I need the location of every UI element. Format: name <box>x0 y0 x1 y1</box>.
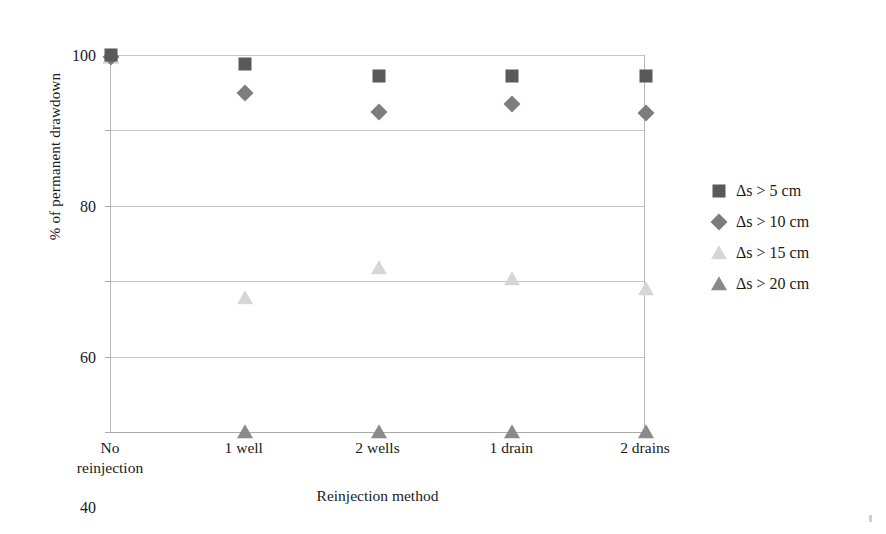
data-point <box>640 69 653 82</box>
data-point <box>105 49 118 62</box>
legend-marker-triangle-dark-icon <box>709 276 729 292</box>
y-tick-60: 60 <box>105 206 111 207</box>
scatter-chart-figure: % of permanent drawdown 020406080100 Rei… <box>0 0 886 534</box>
data-point <box>504 424 520 438</box>
legend-label: Δs > 20 cm <box>736 276 809 292</box>
data-point <box>372 69 385 82</box>
gridline-y-80 <box>111 130 644 131</box>
x-tick-label: 1 drain <box>451 438 571 458</box>
x-axis-title: Reinjection method <box>110 487 645 505</box>
legend-label: Δs > 10 cm <box>736 214 809 230</box>
data-point <box>504 272 520 286</box>
legend-item[interactable]: Δs > 10 cm <box>709 213 809 231</box>
data-point <box>371 424 387 438</box>
scan-artifact <box>869 515 872 522</box>
data-point <box>638 105 655 122</box>
gridline-y-100 <box>111 55 644 56</box>
legend-label: Δs > 5 cm <box>736 183 801 199</box>
legend-label: Δs > 15 cm <box>736 245 809 261</box>
y-tick-0: 0 <box>105 432 111 433</box>
legend-item[interactable]: Δs > 5 cm <box>709 182 809 200</box>
y-tick-40: 40 <box>105 281 111 282</box>
data-point <box>638 424 654 438</box>
data-point <box>238 58 251 71</box>
data-point <box>371 260 387 274</box>
x-tick-label: 1 well <box>184 438 304 458</box>
legend-item[interactable]: Δs > 15 cm <box>709 244 809 262</box>
x-tick-label: 2 drains <box>585 438 705 458</box>
y-tick-label: 40 <box>80 500 96 516</box>
y-tick-label: 100 <box>72 48 96 64</box>
legend-item[interactable]: Δs > 20 cm <box>709 275 809 293</box>
data-point <box>370 103 387 120</box>
x-tick-label: 2 wells <box>318 438 438 458</box>
y-tick-80: 80 <box>105 130 111 131</box>
y-tick-label: 60 <box>80 350 96 366</box>
data-point <box>504 96 521 113</box>
y-tick-20: 20 <box>105 357 111 358</box>
chart-legend: Δs > 5 cmΔs > 10 cmΔs > 15 cmΔs > 20 cm <box>709 182 809 293</box>
y-tick-label: 80 <box>80 199 96 215</box>
data-point <box>236 84 253 101</box>
legend-marker-diamond-icon <box>709 214 729 230</box>
data-point <box>237 290 253 304</box>
data-point <box>237 424 253 438</box>
legend-marker-square-icon <box>709 183 729 199</box>
gridline-y-60 <box>111 206 644 207</box>
x-tick-label: No reinjection <box>50 438 170 478</box>
plot-area: 020406080100 <box>110 55 645 432</box>
data-point <box>638 281 654 295</box>
data-point <box>506 69 519 82</box>
gridline-y-20 <box>111 357 644 358</box>
y-axis-title: % of permanent drawdown <box>47 7 64 307</box>
gridline-y-40 <box>111 281 644 282</box>
legend-marker-triangle-light-icon <box>709 245 729 261</box>
